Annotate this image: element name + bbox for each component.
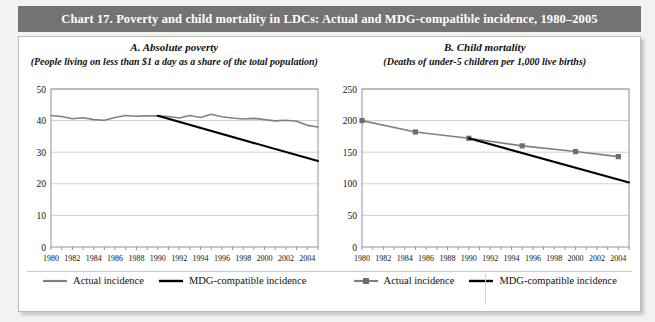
x-axis-tick-label: 1992 <box>171 254 187 263</box>
chart-frame: A. Absolute poverty (People living on le… <box>18 36 641 312</box>
legend-label-actual-a: Actual incidence <box>73 275 144 286</box>
y-axis-tick-label: 0 <box>41 243 46 253</box>
x-axis-tick-label: 1988 <box>439 254 455 263</box>
x-axis-tick-label: 1982 <box>64 254 80 263</box>
y-axis-tick-label: 50 <box>37 85 47 95</box>
panel-b-heading: B. Child mortality (Deaths of under-5 ch… <box>330 41 641 68</box>
panel-child-mortality: B. Child mortality (Deaths of under-5 ch… <box>330 37 641 273</box>
x-axis-tick-label: 1986 <box>107 254 123 263</box>
y-axis-tick-label: 0 <box>352 243 357 253</box>
page-title: Chart 17. Poverty and child mortality in… <box>61 12 597 27</box>
legend-label-actual-b: Actual incidence <box>384 275 455 286</box>
x-axis-tick-label: 1980 <box>354 254 370 263</box>
x-axis-tick-label: 2002 <box>588 254 604 263</box>
panel-b-title: B. Child mortality <box>330 41 641 55</box>
legend-item-actual-a: Actual incidence <box>42 275 144 286</box>
x-axis-tick-label: 2004 <box>299 254 315 263</box>
panel-a-svg: 0102030405019801982198419861988199019921… <box>19 81 330 273</box>
legend-label-mdg-a: MDG-compatible incidence <box>189 275 307 286</box>
series-marker <box>615 154 620 159</box>
x-axis-tick-label: 1992 <box>482 254 498 263</box>
panel-a-subtitle: (People living on less than $1 a day as … <box>19 56 330 69</box>
panel-b-plot-area: 0501001502002501980198219841986198819901… <box>330 81 641 273</box>
y-axis-tick-label: 250 <box>342 85 357 95</box>
chart-page: Chart 17. Poverty and child mortality in… <box>0 0 655 322</box>
legend-item-mdg-b: MDG-compatible incidence <box>468 275 617 286</box>
plot-border <box>51 89 318 247</box>
x-axis-tick-label: 1988 <box>128 254 144 263</box>
panel-b-svg: 0501001502002501980198219841986198819901… <box>330 81 641 273</box>
y-axis-tick-label: 150 <box>342 148 357 158</box>
x-axis-tick-label: 1998 <box>546 254 562 263</box>
x-axis-tick-label: 1994 <box>503 254 519 263</box>
panels-container: A. Absolute poverty (People living on le… <box>19 37 640 273</box>
panel-a-plot-area: 0102030405019801982198419861988199019921… <box>19 81 330 273</box>
legend-panel-a: Actual incidence MDG-compatible incidenc… <box>19 271 330 311</box>
x-axis-tick-label: 1984 <box>396 254 412 263</box>
series-line <box>158 116 318 161</box>
y-axis-tick-label: 50 <box>347 211 357 221</box>
legend-panel-b: Actual incidence MDG-compatible incidenc… <box>330 271 641 311</box>
panel-a-title: A. Absolute poverty <box>19 41 330 55</box>
x-axis-tick-label: 2004 <box>610 254 626 263</box>
legend-item-actual-b: Actual incidence <box>353 275 455 286</box>
x-axis-tick-label: 1996 <box>524 254 540 263</box>
series-marker <box>519 143 524 148</box>
series-line <box>362 121 618 157</box>
series-marker <box>573 149 578 154</box>
panel-absolute-poverty: A. Absolute poverty (People living on le… <box>19 37 330 273</box>
series-marker <box>412 129 417 134</box>
y-axis-tick-label: 100 <box>342 179 357 189</box>
y-axis-tick-label: 20 <box>37 179 47 189</box>
series-marker <box>359 118 364 123</box>
legend-vertical-divider <box>485 273 486 305</box>
plot-border <box>362 89 629 247</box>
chart-title-bar: Chart 17. Poverty and child mortality in… <box>18 6 641 32</box>
series-line <box>468 138 628 182</box>
x-axis-tick-label: 1982 <box>375 254 391 263</box>
x-axis-tick-label: 1980 <box>43 254 59 263</box>
x-axis-tick-label: 1986 <box>418 254 434 263</box>
legend-swatch-actual-b <box>353 276 379 286</box>
y-axis-tick-label: 200 <box>342 116 357 126</box>
panel-a-heading: A. Absolute poverty (People living on le… <box>19 41 330 68</box>
legend-swatch-mdg-b <box>468 276 494 286</box>
x-axis-tick-label: 1998 <box>235 254 251 263</box>
x-axis-tick-label: 2000 <box>567 254 583 263</box>
legend-item-mdg-a: MDG-compatible incidence <box>158 275 307 286</box>
legend-swatch-mdg-a <box>158 276 184 286</box>
x-axis-tick-label: 1990 <box>150 254 166 263</box>
x-axis-tick-label: 1990 <box>460 254 476 263</box>
x-axis-tick-label: 2002 <box>278 254 294 263</box>
legends-container: Actual incidence MDG-compatible incidenc… <box>19 271 640 311</box>
legend-swatch-actual-a <box>42 276 68 286</box>
y-axis-tick-label: 30 <box>37 148 47 158</box>
x-axis-tick-label: 1984 <box>86 254 102 263</box>
x-axis-tick-label: 1994 <box>193 254 209 263</box>
legend-label-mdg-b: MDG-compatible incidence <box>499 275 617 286</box>
x-axis-tick-label: 1996 <box>214 254 230 263</box>
x-axis-tick-label: 2000 <box>257 254 273 263</box>
panel-b-subtitle: (Deaths of under-5 children per 1,000 li… <box>330 56 641 69</box>
y-axis-tick-label: 40 <box>37 116 47 126</box>
y-axis-tick-label: 10 <box>37 211 47 221</box>
